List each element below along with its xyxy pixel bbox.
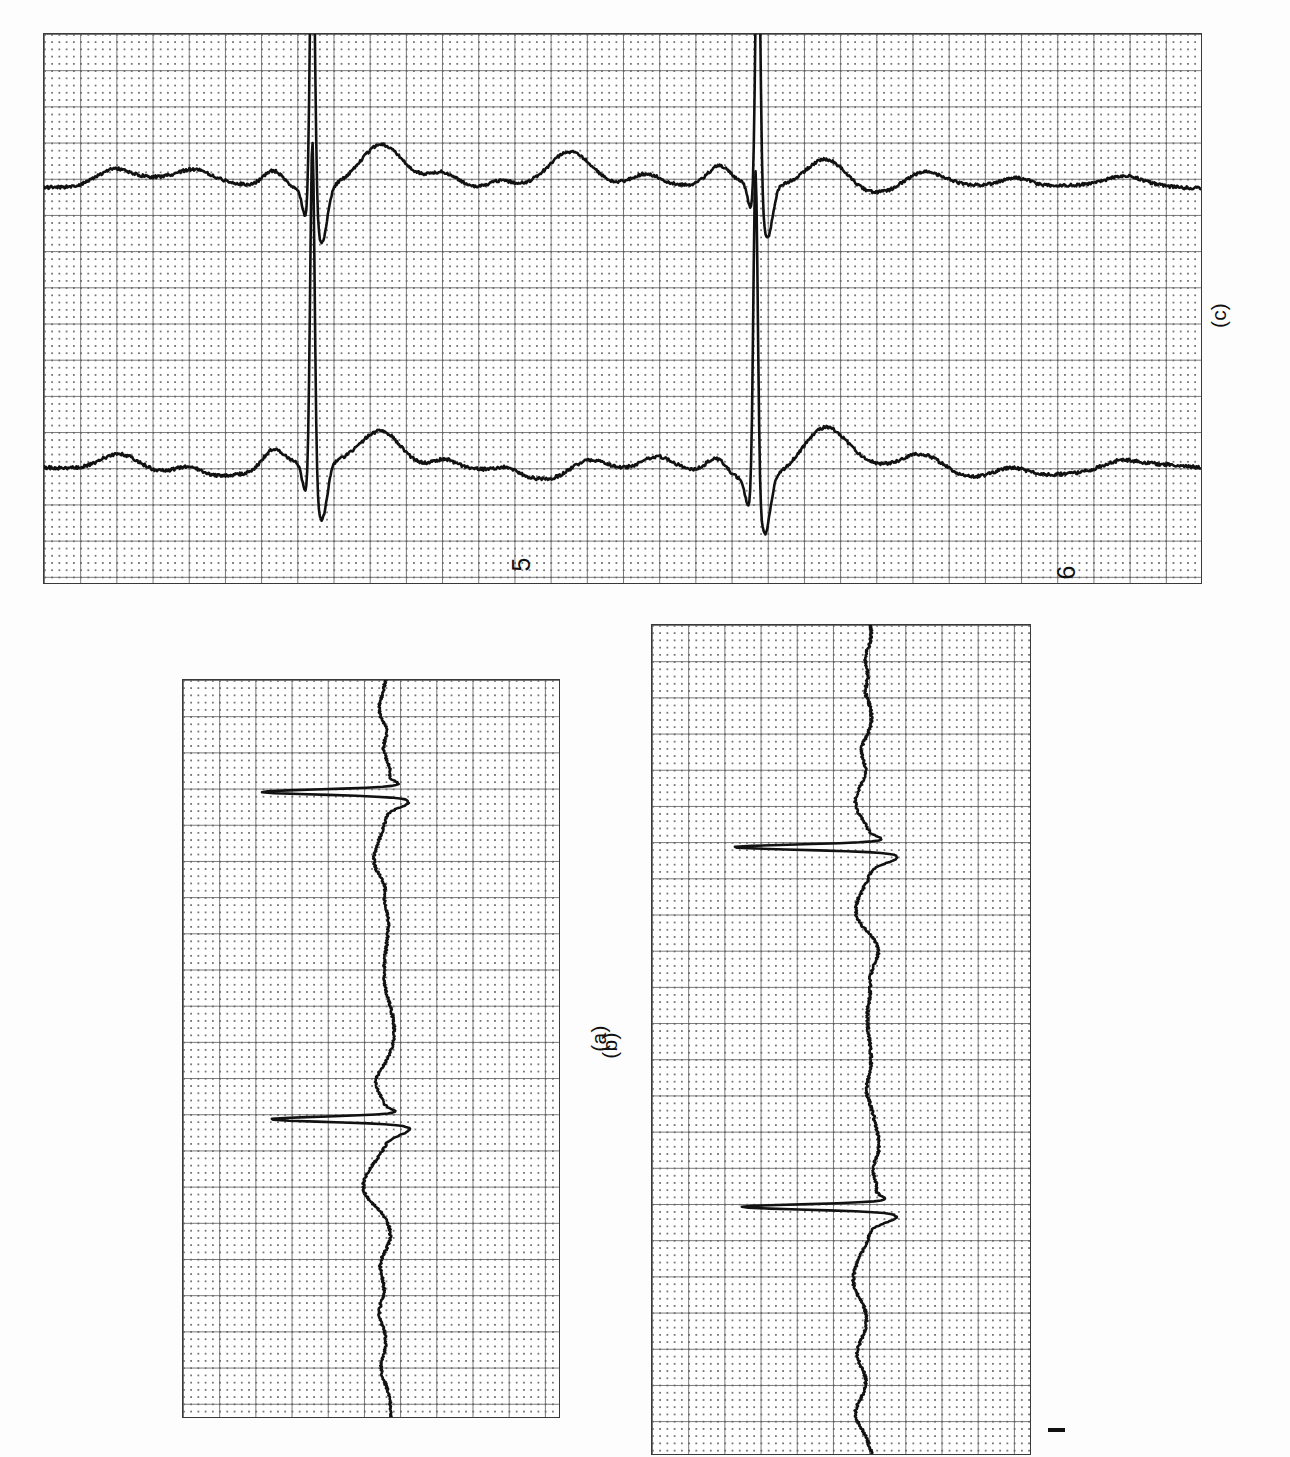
ecg-trace-strip-6 [44,34,1200,243]
ecg-trace-strip-5 [44,143,1200,535]
panel-caption-c: (c) [1208,303,1229,328]
strip-number-6: 6 [1054,566,1079,580]
ecg-trace-strip-b [735,625,897,1454]
panel-caption-b: (b) [599,1032,620,1058]
ecg-panel-b [651,624,1031,1455]
ecg-panel-c [43,33,1202,584]
figure-canvas: 5 6 (c) (a) (b) [0,0,1290,1457]
ecg-trace-panel-c [44,34,1201,583]
strip-number-5: 5 [509,558,534,572]
calibration-mark [1048,1428,1065,1432]
ecg-panel-a [182,679,560,1418]
ecg-trace-strip-a [262,680,410,1417]
ecg-trace-panel-b [652,625,1030,1454]
ecg-trace-panel-a [183,680,559,1417]
